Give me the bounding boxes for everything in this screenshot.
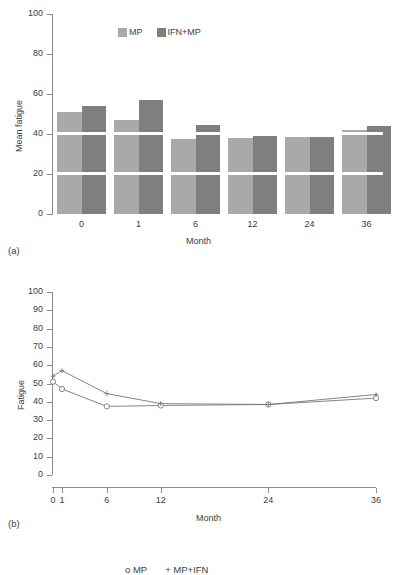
panel-b-legend: o MP + MP+IFN bbox=[125, 564, 208, 575]
panel-a-x-tick-label: 0 bbox=[62, 220, 102, 229]
panel-a-x-axis-title: Month bbox=[186, 236, 211, 246]
panel-a-tag: (a) bbox=[8, 245, 20, 256]
bar-mp-month-24 bbox=[285, 137, 310, 214]
panel-b-marker-plus bbox=[51, 374, 56, 379]
panel-a-x-tick-label: 36 bbox=[347, 220, 387, 229]
panel-b-line-chart: 0102030405060708090100 016122436 Fatigue… bbox=[0, 265, 394, 536]
panel-b-line-mp bbox=[53, 382, 376, 407]
bar-ifn-mp-month-36 bbox=[367, 126, 392, 214]
panel-a-x-tick-label: 12 bbox=[233, 220, 273, 229]
panel-b-marker-circle bbox=[50, 379, 55, 384]
bar-ifn-mp-month-0 bbox=[82, 106, 107, 214]
panel-a-origin-tick bbox=[47, 214, 52, 215]
legend-label-ifn-mp: IFN+MP bbox=[168, 27, 201, 37]
panel-b-marker-plus bbox=[60, 368, 65, 373]
legend-item-ifn-mp: IFN+MP bbox=[157, 27, 201, 37]
bar-ifn-mp-month-12 bbox=[253, 136, 278, 214]
panel-b-series-plot bbox=[0, 265, 394, 536]
panel-a-y-tick bbox=[47, 174, 52, 175]
legend-swatch-mp-icon bbox=[118, 28, 127, 37]
bar-mp-month-6 bbox=[171, 139, 196, 214]
panel-a-x-tick-label: 24 bbox=[290, 220, 330, 229]
panel-a-y-tick bbox=[47, 14, 52, 15]
panel-b-marker-circle bbox=[59, 386, 64, 391]
panel-b-line-mp-ifn bbox=[53, 371, 376, 405]
panel-b-x-axis-title: Month bbox=[196, 513, 221, 523]
legend-label-mp-ifn: + MP+IFN bbox=[165, 564, 208, 575]
bar-mp-month-12 bbox=[228, 138, 253, 214]
panel-a-y-tick-label: 100 bbox=[10, 9, 43, 18]
panel-a-x-axis bbox=[52, 214, 53, 215]
panel-b-tag: (b) bbox=[8, 518, 20, 529]
panel-a-y-tick bbox=[47, 54, 52, 55]
panel-a-x-tick-label: 1 bbox=[119, 220, 159, 229]
legend-label-mp: MP bbox=[129, 27, 143, 37]
panel-a-white-band bbox=[53, 132, 383, 135]
panel-a-y-axis bbox=[52, 14, 53, 215]
panel-a-y-axis-title: Mean fatigue bbox=[14, 100, 24, 152]
panel-a-y-tick-label: 20 bbox=[10, 169, 43, 178]
bar-ifn-mp-month-24 bbox=[310, 137, 335, 214]
panel-b-marker-plus bbox=[104, 391, 109, 396]
legend-label-mp: o MP bbox=[125, 564, 147, 575]
legend-item-mp: MP bbox=[118, 27, 143, 37]
panel-a-bar-chart: 020406080100 016122436 Mean fatigue Mont… bbox=[0, 0, 394, 268]
panel-a-y-tick-label: 0 bbox=[10, 209, 43, 218]
panel-a-white-band bbox=[53, 172, 383, 175]
panel-a-legend: MP IFN+MP bbox=[118, 27, 201, 37]
panel-a-y-tick-label: 60 bbox=[10, 89, 43, 98]
legend-swatch-ifn-mp-icon bbox=[157, 28, 166, 37]
panel-a-y-tick-label: 80 bbox=[10, 49, 43, 58]
bar-ifn-mp-month-6 bbox=[196, 125, 221, 214]
panel-a-x-tick-label: 6 bbox=[176, 220, 216, 229]
panel-b-marker-circle bbox=[104, 404, 109, 409]
panel-a-y-tick bbox=[47, 134, 52, 135]
bar-ifn-mp-month-1 bbox=[139, 100, 164, 214]
panel-b-y-axis-title: Fatigue bbox=[16, 380, 26, 410]
bar-mp-month-0 bbox=[57, 112, 82, 214]
panel-a-y-tick bbox=[47, 94, 52, 95]
